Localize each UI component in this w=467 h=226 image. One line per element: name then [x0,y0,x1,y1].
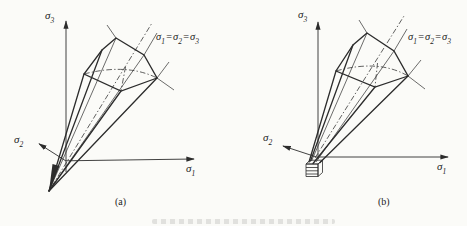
caption-b: (b) [378,196,390,207]
cone-back-edge [49,55,144,191]
edge-extension [157,62,169,78]
subscript: 2 [178,37,182,46]
sigma2-axis-label-b: σ2 [263,131,272,143]
sigma3-axis-label-b: σ3 [298,8,307,20]
cone-edge [313,87,375,164]
subscript: 2 [430,37,434,46]
hydrostatic-axis-line [52,23,152,186]
cropped-caption-remnant [152,219,335,224]
sigma1-axis-label-b: σ1 [437,160,446,172]
equals-sign: = [182,31,189,42]
subscript: 3 [447,37,451,46]
subscript: 1 [191,169,195,178]
cone-back-edge [49,38,116,191]
subscript: 3 [195,37,199,46]
subscript: 1 [161,37,165,46]
sigma3-axis-label-a: σ3 [45,9,54,21]
edge-extension [359,20,367,33]
equals-sign: = [165,31,172,42]
diagram-drawing [0,0,467,226]
sigma1-axis-label-a: σ1 [186,162,195,174]
yield-surface-figure: σ3 σ2 σ1 σ1=σ2=σ3 (a) σ3 σ2 σ1 σ1=σ2=σ3 … [0,0,467,226]
subscript: 1 [413,37,417,46]
equals-sign: = [417,31,424,42]
truncation-box-layers [306,168,318,175]
caption-a: (a) [115,196,126,207]
deviatoric-plane-arc [84,69,157,78]
edge-extension [394,29,407,51]
edge-extension [408,60,421,76]
cone-back-edge [312,33,368,161]
subscript: 2 [268,138,272,147]
panel-a-drawing [39,21,194,191]
hydrostatic-axis-label-a: σ1=σ2=σ3 [156,31,199,42]
subscript: 1 [442,167,446,176]
edge-extension [157,78,174,90]
subscript: 2 [19,140,23,149]
hydrostatic-axis-label-b: σ1=σ2=σ3 [408,31,451,42]
cone-edge [309,71,336,162]
cone-back-edge [316,51,394,162]
sigma2-axis-label-a: σ2 [14,133,23,145]
equals-sign: = [434,31,441,42]
cone-edge [311,45,354,161]
edge-extension [107,25,116,38]
subscript: 3 [50,16,54,25]
edge-extension [408,76,425,89]
cone-edge [320,76,408,163]
hydrostatic-axis-line [315,16,404,158]
hexagonal-rim [84,38,157,91]
truncation-box-front [306,164,318,177]
cone-edge [49,78,157,191]
subscript: 3 [303,15,307,24]
sigma1-axis-line [66,159,194,161]
